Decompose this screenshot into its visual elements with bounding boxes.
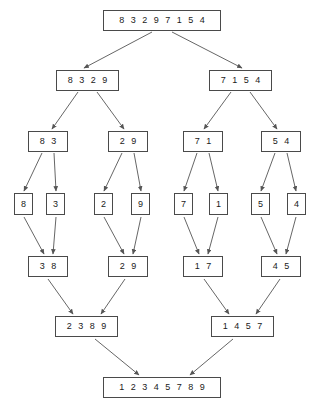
arrow-n17-to-n20 xyxy=(204,279,229,314)
arrow-n12-to-n17 xyxy=(208,217,218,254)
node-merge-1-1: 3 8 xyxy=(28,256,68,277)
arrow-n6-to-n14 xyxy=(287,153,296,191)
arrow-n13-to-n18 xyxy=(261,217,277,254)
node-merge-2-1: 2 3 8 9 xyxy=(55,316,118,337)
arrow-n6-to-n13 xyxy=(261,153,275,191)
node-leaves-8: 4 xyxy=(287,193,306,215)
arrow-n1-to-n4 xyxy=(97,92,124,129)
node-root-1: 8 3 2 9 7 1 5 4 xyxy=(103,10,221,31)
arrow-n3-to-n7 xyxy=(24,153,42,191)
node-leaves-1: 8 xyxy=(14,193,33,215)
arrow-n15-to-n19 xyxy=(48,279,73,314)
node-leaves-4: 9 xyxy=(131,193,150,215)
node-merge-1-4: 4 5 xyxy=(261,256,301,277)
node-split-2-4: 5 4 xyxy=(261,131,301,152)
arrow-n20-to-n21 xyxy=(190,339,233,375)
arrow-n5-to-n12 xyxy=(209,153,218,191)
node-split-2-3: 7 1 xyxy=(183,131,223,152)
node-split-1-1: 8 3 2 9 xyxy=(56,70,119,91)
node-split-2-1: 8 3 xyxy=(28,131,68,152)
arrow-n0-to-n2 xyxy=(172,32,242,68)
merge-sort-diagram: 8 3 2 9 7 1 5 48 3 2 97 1 5 48 32 97 15 … xyxy=(0,0,323,411)
arrow-n8-to-n15 xyxy=(53,217,56,254)
node-leaves-3: 2 xyxy=(94,193,113,215)
node-merge-2-2: 1 4 5 7 xyxy=(211,316,274,337)
arrow-n16-to-n19 xyxy=(101,279,125,314)
arrow-n3-to-n8 xyxy=(54,153,56,191)
arrow-n9-to-n16 xyxy=(104,217,124,254)
node-leaves-2: 3 xyxy=(46,193,65,215)
node-leaves-5: 7 xyxy=(174,193,193,215)
node-split-1-2: 7 1 5 4 xyxy=(209,70,272,91)
node-merge-1-2: 2 9 xyxy=(108,256,148,277)
arrow-n19-to-n21 xyxy=(95,339,139,375)
arrow-n10-to-n16 xyxy=(133,217,141,254)
arrow-n2-to-n6 xyxy=(250,92,277,129)
arrow-n5-to-n11 xyxy=(184,153,197,191)
arrow-n7-to-n15 xyxy=(24,217,44,254)
node-result-1: 1 2 3 4 5 7 8 9 xyxy=(103,377,221,398)
arrow-n1-to-n3 xyxy=(52,92,78,129)
arrow-n4-to-n10 xyxy=(134,153,141,191)
node-split-2-2: 2 9 xyxy=(108,131,148,152)
node-leaves-6: 1 xyxy=(209,193,228,215)
arrow-n11-to-n17 xyxy=(184,217,199,254)
arrow-n4-to-n9 xyxy=(104,153,122,191)
arrow-n18-to-n20 xyxy=(256,279,280,314)
arrow-n2-to-n5 xyxy=(204,92,231,129)
arrow-n14-to-n18 xyxy=(286,217,296,254)
node-leaves-7: 5 xyxy=(251,193,270,215)
arrow-n0-to-n1 xyxy=(84,32,152,68)
node-merge-1-3: 1 7 xyxy=(183,256,223,277)
